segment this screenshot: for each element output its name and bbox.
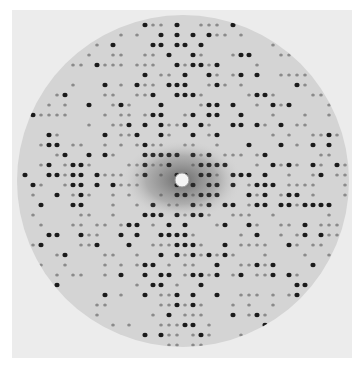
beamstop (175, 173, 189, 187)
diffraction-pattern (0, 0, 363, 370)
